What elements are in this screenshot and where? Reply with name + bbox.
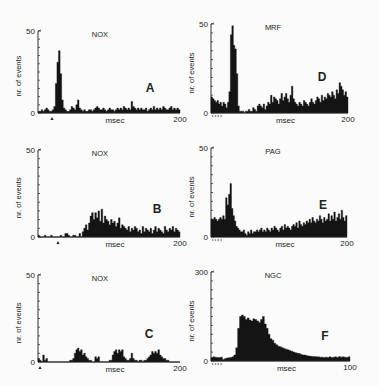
histogram-bars [211, 315, 350, 361]
y-tick-zero: 0 [204, 357, 209, 366]
x-axis-label: msec [277, 364, 296, 373]
y-tick-max: 300 [195, 268, 209, 277]
histogram-f: 3000nr. of events100msecNGCF [0, 0, 379, 386]
panel-letter: F [321, 329, 328, 343]
panel-title: NGC [265, 271, 282, 280]
x-tick-max: 100 [343, 363, 357, 372]
y-axis-label: nr. of events [187, 300, 196, 341]
panel-f: 3000nr. of events100msecNGCF [0, 0, 379, 386]
